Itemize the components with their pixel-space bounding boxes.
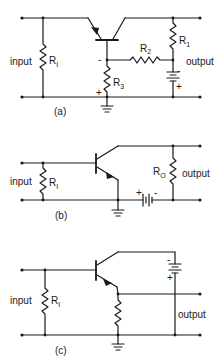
- resistor-ri: [42, 270, 48, 335]
- output-label: output: [178, 309, 206, 320]
- emitter-arrow-icon: [103, 279, 112, 286]
- input-label: input: [10, 295, 32, 306]
- base-minus-sign: -: [98, 54, 101, 65]
- r2-label: R2: [140, 43, 151, 55]
- terminal-dot: [198, 198, 201, 201]
- caption-b: (b): [55, 210, 67, 221]
- circuit-c: - + input RI output: [10, 252, 206, 356]
- ri-label: RI: [49, 177, 58, 190]
- terminal-dot: [198, 292, 201, 295]
- terminal-dot: [20, 95, 23, 98]
- caption-a: (a): [54, 106, 66, 117]
- terminal-dot: [20, 198, 23, 201]
- r3-plus-sign: +: [96, 87, 102, 98]
- resistor-r1: [170, 18, 176, 60]
- terminal-dot: [20, 333, 23, 336]
- transistor-circuit-diagrams: input RI - R2 R1 output - +: [0, 0, 224, 363]
- resistor-r2: [107, 57, 173, 63]
- r3-label: R3: [113, 77, 124, 90]
- resistor-emitter: [115, 294, 121, 335]
- emitter-arrow-icon: [106, 172, 114, 179]
- terminal-dot: [198, 95, 201, 98]
- battery-plus-sign: +: [167, 272, 173, 283]
- ri-label: RI: [51, 295, 60, 308]
- resistor-ri: [40, 163, 46, 200]
- terminal-dot: [198, 333, 201, 336]
- battery-plus-sign: +: [136, 187, 142, 198]
- output-label: output: [182, 168, 210, 179]
- terminal-dot: [20, 161, 23, 164]
- ro-label: RO: [153, 166, 166, 179]
- resistor-r3: [104, 60, 110, 97]
- resistor-ri: [40, 18, 46, 97]
- input-label: input: [10, 56, 32, 67]
- resistor-ro: [170, 146, 176, 200]
- terminal-dot: [20, 268, 23, 271]
- battery-icon: [143, 194, 152, 206]
- ri-label: RI: [49, 55, 58, 68]
- r1-label: R1: [179, 35, 190, 48]
- ground-icon: [112, 200, 124, 216]
- output-label: output: [186, 56, 214, 67]
- battery-minus-sign: -: [177, 65, 180, 76]
- caption-c: (c): [55, 345, 67, 356]
- input-label: input: [10, 176, 32, 187]
- ground-icon: [101, 97, 113, 112]
- battery-plus-sign: +: [176, 81, 182, 92]
- battery-minus-sign: -: [167, 254, 170, 265]
- battery-minus-sign: -: [154, 187, 157, 198]
- ground-icon: [112, 335, 124, 350]
- terminal-dot: [198, 16, 201, 19]
- circuit-b: input RI RO output + - (b): [10, 144, 210, 221]
- circuit-a: input RI - R2 R1 output - +: [10, 16, 214, 117]
- terminal-dot: [198, 144, 201, 147]
- terminal-dot: [20, 16, 23, 19]
